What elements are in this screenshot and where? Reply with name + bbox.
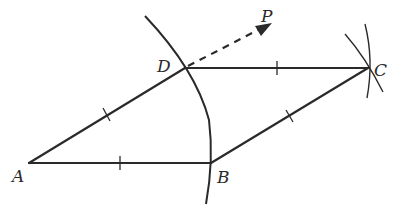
ray-d-to-p bbox=[188, 29, 260, 66]
label-d: D bbox=[156, 56, 171, 76]
label-c: C bbox=[374, 60, 387, 80]
rhombus-construction-diagram: A B C D P bbox=[0, 0, 394, 210]
label-b: B bbox=[216, 167, 230, 187]
label-p: P bbox=[260, 6, 273, 26]
compass-arc-centered-a bbox=[145, 16, 211, 204]
label-a: A bbox=[10, 166, 24, 186]
